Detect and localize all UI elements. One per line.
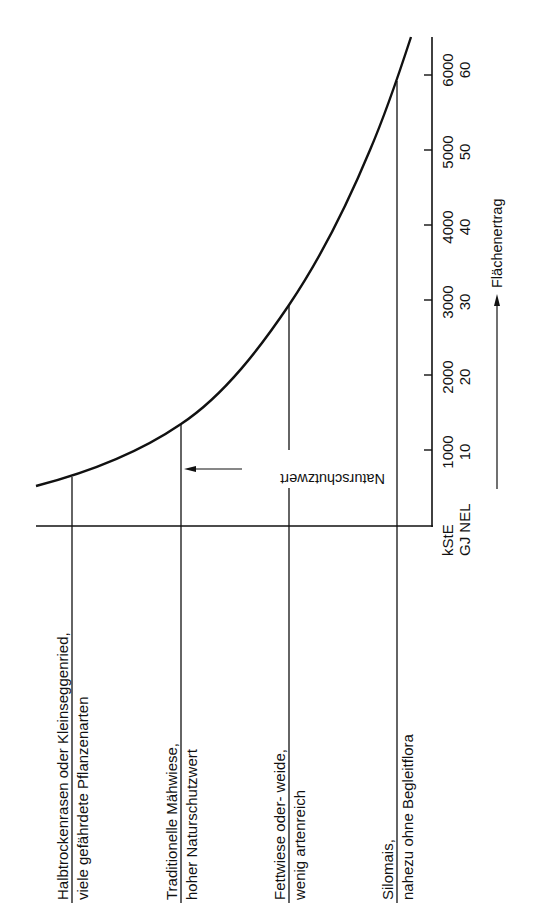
category-label-4-line1: Silomais, xyxy=(379,839,396,900)
tick-label-gj-40: 40 xyxy=(456,219,473,236)
category-label-3-line1: Fettwiese oder- weide, xyxy=(271,749,288,900)
category-label-1-line2: viele gefährdete Pflanzenarten xyxy=(74,697,91,900)
yield-vs-conservation-diagram: 1000 10 2000 20 3000 30 4000 40 5000 50 … xyxy=(0,0,538,920)
tick-label-kstE-1000: 1000 xyxy=(439,435,456,468)
tick-label-gj-10: 10 xyxy=(456,444,473,461)
tick-label-kstE-4000: 4000 xyxy=(439,210,456,243)
tick-labels: 1000 10 2000 20 3000 30 4000 40 5000 50 … xyxy=(439,53,473,556)
category-label-3-line2: wenig artenreich xyxy=(291,790,308,901)
category-label-1-line1: Halbtrockenrasen oder Kleinseggenried, xyxy=(54,632,71,900)
tick-label-kstE-5000: 5000 xyxy=(439,135,456,168)
category-label-4-line2: nahezu ohne Begleitflora xyxy=(399,733,416,900)
category-label-2-line2: hoher Naturschutzwert xyxy=(183,748,200,900)
yield-curve xyxy=(36,37,411,486)
category-label-2-line1: Traditionelle Mähwiese, xyxy=(163,743,180,900)
tick-label-kstE-6000: 6000 xyxy=(439,53,456,86)
yield-arrow-head-icon xyxy=(494,294,500,306)
category-labels: Halbtrockenrasen oder Kleinseggenried, v… xyxy=(54,632,416,901)
unit-label-kstE: kStE xyxy=(439,524,456,556)
tick-label-gj-20: 20 xyxy=(456,369,473,386)
conservation-arrow-head-icon xyxy=(184,466,196,472)
tick-label-kstE-3000: 3000 xyxy=(439,285,456,318)
axis-title-flaechenertrag: Flächenertrag xyxy=(489,199,505,288)
unit-label-gj-nel: GJ NEL xyxy=(456,503,473,556)
annotation-naturschutzwert: Naturschutzwert xyxy=(280,471,385,487)
tick-label-gj-50: 50 xyxy=(456,144,473,161)
tick-label-kstE-2000: 2000 xyxy=(439,360,456,393)
tick-label-gj-30: 30 xyxy=(456,294,473,311)
axis-ticks xyxy=(424,75,432,450)
tick-label-gj-60: 60 xyxy=(456,62,473,79)
